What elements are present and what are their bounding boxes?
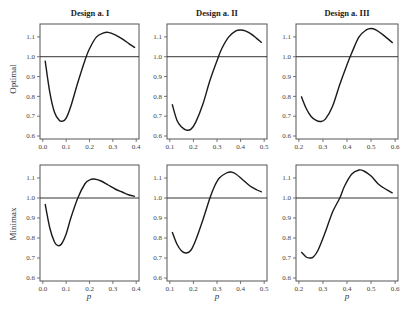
x-tick-label: 0.4 xyxy=(132,143,141,151)
y-tick-label: 1.0 xyxy=(153,53,162,61)
y-tick-label: 0.6 xyxy=(26,274,35,282)
efficiency-curve xyxy=(172,30,262,130)
y-tick-label: 0.9 xyxy=(282,73,291,81)
x-tick-label: 0.0 xyxy=(38,285,47,293)
x-tick-label: 0.3 xyxy=(213,143,222,151)
panel-optimal-design-3: 0.60.70.80.91.01.10.20.30.40.50.6 xyxy=(282,24,400,151)
y-tick-label: 1.1 xyxy=(153,33,162,41)
y-tick-label: 0.6 xyxy=(282,132,291,140)
x-tick-label: 0.6 xyxy=(391,143,400,151)
y-tick-label: 0.7 xyxy=(153,254,162,262)
x-tick-label: 0.5 xyxy=(367,143,376,151)
plot-frame xyxy=(167,24,267,139)
panel-minimax-design-3: 0.60.70.80.91.01.10.20.30.40.50.6 xyxy=(282,165,400,293)
y-tick-label: 0.8 xyxy=(282,93,291,101)
x-tick-label: 0.2 xyxy=(295,143,304,151)
x-tick-label: 0.6 xyxy=(391,285,400,293)
y-tick-label: 0.7 xyxy=(282,112,291,120)
x-tick-label: 0.3 xyxy=(319,143,328,151)
y-tick-label: 0.6 xyxy=(282,274,291,282)
y-tick-label: 0.6 xyxy=(26,132,35,140)
y-tick-label: 1.1 xyxy=(26,174,35,182)
y-tick-label: 0.7 xyxy=(153,112,162,120)
y-tick-label: 0.8 xyxy=(26,234,35,242)
efficiency-curve xyxy=(45,179,135,246)
y-tick-label: 0.7 xyxy=(26,254,35,262)
y-tick-label: 0.8 xyxy=(153,93,162,101)
x-tick-label: 0.3 xyxy=(213,285,222,293)
x-tick-label: 0.2 xyxy=(85,285,94,293)
figure: Design a. I Design a. II Design a. III O… xyxy=(0,0,411,311)
x-tick-label: 0.1 xyxy=(165,143,174,151)
y-tick-label: 0.7 xyxy=(26,112,35,120)
plot-frame xyxy=(296,24,398,139)
y-tick-label: 0.8 xyxy=(26,93,35,101)
efficiency-curve xyxy=(45,32,135,121)
plot-frame xyxy=(40,165,139,281)
x-tick-label: 0.2 xyxy=(189,143,198,151)
y-tick-label: 1.1 xyxy=(26,33,35,41)
x-tick-label: 0.4 xyxy=(236,285,245,293)
y-tick-label: 1.1 xyxy=(153,174,162,182)
plot-grid: 0.60.70.80.91.01.10.00.10.20.30.40.60.70… xyxy=(0,0,411,311)
y-tick-label: 1.0 xyxy=(282,53,291,61)
y-tick-label: 0.9 xyxy=(282,214,291,222)
x-tick-label: 0.5 xyxy=(367,285,376,293)
x-tick-label: 0.3 xyxy=(108,143,117,151)
y-tick-label: 0.9 xyxy=(26,214,35,222)
y-tick-label: 1.0 xyxy=(282,194,291,202)
panel-optimal-design-1: 0.60.70.80.91.01.10.00.10.20.30.4 xyxy=(26,24,141,151)
x-tick-label: 0.2 xyxy=(295,285,304,293)
y-tick-label: 0.7 xyxy=(282,254,291,262)
panel-minimax-design-1: 0.60.70.80.91.01.10.00.10.20.30.4 xyxy=(26,165,141,293)
y-tick-label: 0.8 xyxy=(153,234,162,242)
x-tick-label: 0.0 xyxy=(38,143,47,151)
y-tick-label: 1.1 xyxy=(282,174,291,182)
x-tick-label: 0.3 xyxy=(108,285,117,293)
x-tick-label: 0.2 xyxy=(85,143,94,151)
x-tick-label: 0.4 xyxy=(343,285,352,293)
y-tick-label: 1.0 xyxy=(26,194,35,202)
x-tick-label: 0.4 xyxy=(236,143,245,151)
x-tick-label: 0.3 xyxy=(319,285,328,293)
x-tick-label: 0.1 xyxy=(62,143,71,151)
panel-optimal-design-2: 0.60.70.80.91.01.10.10.20.30.40.5 xyxy=(153,24,269,151)
plot-frame xyxy=(40,24,139,139)
x-tick-label: 0.4 xyxy=(343,143,352,151)
efficiency-curve xyxy=(172,172,262,253)
y-tick-label: 0.8 xyxy=(282,234,291,242)
y-tick-label: 0.9 xyxy=(153,73,162,81)
efficiency-curve xyxy=(301,170,392,258)
panel-minimax-design-2: 0.60.70.80.91.01.10.10.20.30.40.5 xyxy=(153,165,269,293)
x-tick-label: 0.4 xyxy=(132,285,141,293)
y-tick-label: 0.9 xyxy=(153,214,162,222)
x-tick-label: 0.1 xyxy=(62,285,71,293)
x-tick-label: 0.5 xyxy=(260,285,269,293)
y-tick-label: 0.9 xyxy=(26,73,35,81)
y-tick-label: 1.0 xyxy=(26,53,35,61)
efficiency-curve xyxy=(301,29,392,122)
x-tick-label: 0.5 xyxy=(260,143,269,151)
x-tick-label: 0.1 xyxy=(165,285,174,293)
y-tick-label: 1.1 xyxy=(282,33,291,41)
y-tick-label: 0.6 xyxy=(153,132,162,140)
y-tick-label: 0.6 xyxy=(153,274,162,282)
x-tick-label: 0.2 xyxy=(189,285,198,293)
y-tick-label: 1.0 xyxy=(153,194,162,202)
